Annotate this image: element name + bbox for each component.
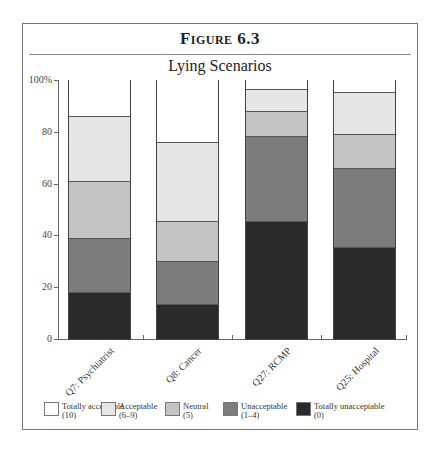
y-axis [58,80,59,340]
bar-segment-totally-unacceptable [69,292,130,339]
stacked-bar [333,80,396,340]
stacked-bar [156,80,219,340]
figure-header: Figure 6.3 Lying Scenarios [22,23,418,83]
y-tick [54,184,59,185]
legend-label: Totally unacceptable(0) [314,402,384,420]
y-tick [54,80,59,81]
bar-segment-totally-acceptable [246,80,307,89]
x-tick [143,335,144,340]
y-tick-label: 60 [42,178,52,189]
figure-label: Figure 6.3 [22,29,418,49]
bar-segment-totally-unacceptable [334,247,395,339]
title-divider [29,54,411,55]
legend-swatch [165,402,180,416]
bar-segment-neutral [157,221,218,261]
bar-segment-neutral [69,181,130,238]
stacked-bar [68,80,131,340]
bar-segment-totally-acceptable [157,80,218,142]
legend-swatch [101,402,116,416]
legend-item-unacceptable: Unacceptable(1–4) [223,402,287,420]
legend-label-line2: (1–4) [241,411,287,420]
legend-label: Neutral(5) [183,402,209,420]
bar-segment-acceptable [246,89,307,111]
bar-segment-unacceptable [334,168,395,247]
legend-label-line2: (5) [183,411,209,420]
y-tick-label: 20 [42,281,52,292]
x-tick [406,335,407,340]
y-tick-label: 80 [42,126,52,137]
legend-swatch [296,402,311,416]
legend-label-line1: Totally unacceptable [314,402,384,411]
bar-segment-neutral [246,111,307,136]
legend-label: Unacceptable(1–4) [241,402,287,420]
bar-segment-neutral [334,134,395,168]
x-tick [232,335,233,340]
y-tick-label: 0 [47,333,52,344]
bar-segment-unacceptable [157,261,218,304]
y-tick-label: 40 [42,229,52,240]
legend-swatch [44,402,59,416]
legend-label-line2: (0) [314,411,384,420]
bar-segment-totally-acceptable [69,80,130,116]
legend-label-line2: (6–9) [119,411,157,420]
legend-item-acceptable: Acceptable(6–9) [101,402,157,420]
y-tick-label: 100% [29,74,52,85]
y-tick [54,235,59,236]
y-tick [54,287,59,288]
chart-title: Lying Scenarios [22,57,418,75]
x-tick [321,335,322,340]
bar-segment-totally-unacceptable [246,221,307,339]
legend-swatch [223,402,238,416]
bar-segment-totally-acceptable [334,80,395,92]
bar-segment-acceptable [334,92,395,135]
y-tick [54,132,59,133]
stacked-bar [245,80,308,340]
legend-item-neutral: Neutral(5) [165,402,209,420]
bar-segment-unacceptable [246,136,307,221]
legend-item-totally-unacceptable: Totally unacceptable(0) [296,402,384,420]
bar-segment-acceptable [157,142,218,221]
bar-segment-unacceptable [69,238,130,292]
bar-segment-acceptable [69,116,130,181]
x-tick [58,335,59,340]
legend-label: Acceptable(6–9) [119,402,157,420]
bar-segment-totally-unacceptable [157,304,218,339]
